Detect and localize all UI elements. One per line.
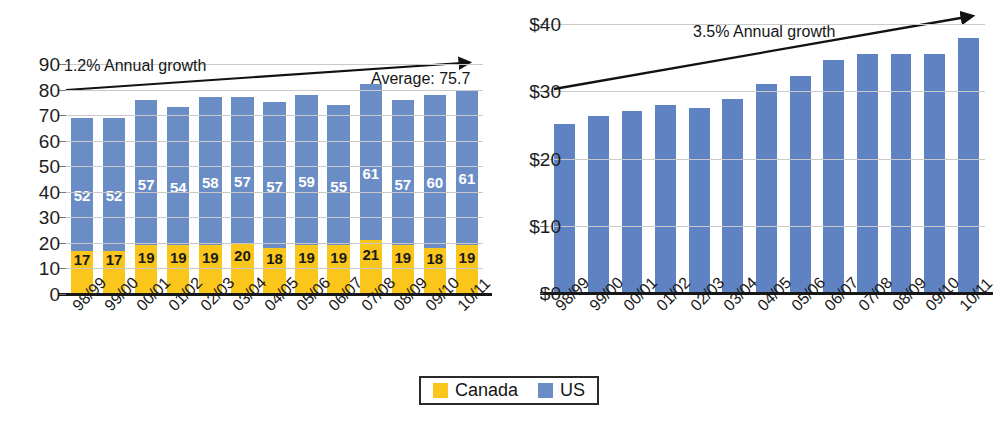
- bar-column: 1857: [263, 64, 285, 294]
- y-tick-label: 10: [18, 259, 60, 278]
- bar-segment-us: 55: [327, 105, 349, 246]
- y-tick-label: $10: [499, 217, 561, 236]
- bar-value-label: 18: [424, 251, 446, 266]
- bar-value-label: 20: [231, 248, 253, 263]
- canada-swatch-icon: [433, 383, 448, 398]
- y-tick-label: 50: [18, 157, 60, 176]
- bar-value-label: 61: [456, 171, 478, 186]
- bar-value-label: 17: [103, 252, 125, 267]
- bar-segment-value: [823, 60, 844, 293]
- bar-segment-value: [790, 76, 811, 293]
- bar-column: 1957: [135, 64, 157, 294]
- left-x-tick-labels: 98/9999/0000/0101/0202/0303/0404/0505/06…: [66, 296, 483, 366]
- bar-segment-us: 52: [71, 118, 93, 251]
- y-tick-label: 60: [18, 132, 60, 151]
- bar-value-label: 19: [167, 250, 189, 265]
- legend-label-us: US: [560, 381, 585, 399]
- bar-segment-us: 59: [295, 95, 317, 246]
- left-growth-annotation: 1.2% Annual growth: [64, 57, 206, 75]
- gridline: [66, 217, 483, 218]
- bar-value-label: 61: [360, 166, 382, 181]
- bar-value-label: 19: [135, 250, 157, 265]
- bar-segment-us: 57: [392, 100, 414, 246]
- left-bar-group: 1752175219571954195820571857195919552161…: [66, 64, 483, 294]
- bar-segment-us: 52: [103, 118, 125, 251]
- gridline: [66, 166, 483, 167]
- bar-value-label: 19: [295, 250, 317, 265]
- y-tick-label: $40: [499, 15, 561, 34]
- gridline: [66, 141, 483, 142]
- bar-segment-value: [857, 54, 878, 293]
- right-plot-area: [548, 24, 985, 293]
- bar-column: 1752: [71, 64, 93, 294]
- gridline: [66, 268, 483, 269]
- bar-value-label: 57: [231, 174, 253, 189]
- y-tick-label: 30: [18, 208, 60, 227]
- bar-value-label: 19: [199, 250, 221, 265]
- bar-segment-value: [958, 38, 979, 293]
- column-chart: 3.5% Annual growth 98/9999/0000/0101/020…: [497, 0, 997, 429]
- us-swatch-icon: [538, 383, 553, 398]
- bar-segment-us: 57: [263, 102, 285, 248]
- legend-label-canada: Canada: [455, 381, 518, 399]
- y-tick-label: $30: [499, 82, 561, 101]
- bar-value-label: 52: [71, 188, 93, 203]
- bar-segment-us: 60: [424, 95, 446, 248]
- bar-column: 1958: [199, 64, 221, 294]
- bar-column: 1955: [327, 64, 349, 294]
- y-tick-label: 20: [18, 234, 60, 253]
- bar-segment-value: [622, 111, 643, 293]
- bar-segment-us: 54: [167, 107, 189, 245]
- bar-column: 2161: [360, 64, 382, 294]
- y-tick-label: 70: [18, 106, 60, 125]
- gridline: [66, 243, 483, 244]
- gridline: [66, 115, 483, 116]
- bar-column: 1959: [295, 64, 317, 294]
- y-tick-label: 0: [18, 285, 60, 304]
- y-tick-label: 40: [18, 183, 60, 202]
- left-plot-area: 1752175219571954195820571857195919552161…: [66, 64, 483, 294]
- bar-segment-value: [655, 105, 676, 293]
- bar-value-label: 58: [199, 175, 221, 190]
- bar-segment-value: [588, 116, 609, 293]
- left-average-annotation: Average: 75.7: [371, 70, 470, 88]
- bar-segment-value: [689, 108, 710, 293]
- bar-value-label: 19: [327, 250, 349, 265]
- y-tick-label: 90: [18, 55, 60, 74]
- gridline: [66, 90, 483, 91]
- bar-value-label: 17: [71, 252, 93, 267]
- bar-segment-value: [722, 99, 743, 293]
- bar-segment-us: 61: [456, 90, 478, 246]
- right-x-tick-labels: 98/9999/0000/0101/0202/0303/0404/0505/06…: [548, 296, 985, 366]
- y-tick-label: $20: [499, 150, 561, 169]
- legend-item-canada: Canada: [433, 381, 518, 399]
- bar-value-label: 54: [167, 180, 189, 195]
- bar-column: 1957: [392, 64, 414, 294]
- y-tick-label: $0: [499, 284, 561, 303]
- chart-legend: Canada US: [419, 376, 599, 405]
- bar-value-label: 60: [424, 175, 446, 190]
- bar-segment-us: 58: [199, 97, 221, 245]
- bar-value-label: 59: [295, 174, 317, 189]
- bar-value-label: 18: [263, 251, 285, 266]
- bar-segment-value: [756, 84, 777, 293]
- bar-segment-us: 57: [135, 100, 157, 246]
- gridline: [548, 91, 985, 92]
- bar-value-label: 19: [456, 250, 478, 265]
- y-tick-label: 80: [18, 81, 60, 100]
- bar-value-label: 21: [360, 247, 382, 262]
- right-growth-annotation: 3.5% Annual growth: [693, 23, 835, 41]
- bar-column: 1961: [456, 64, 478, 294]
- bar-column: 1752: [103, 64, 125, 294]
- bar-value-label: 52: [103, 188, 125, 203]
- legend-item-us: US: [538, 381, 585, 399]
- gridline: [548, 226, 985, 227]
- stacked-bar-chart: 1752175219571954195820571857195919552161…: [0, 0, 500, 429]
- bar-value-label: 57: [135, 177, 157, 192]
- two-chart-figure: 1752175219571954195820571857195919552161…: [0, 0, 997, 429]
- bar-column: 1954: [167, 64, 189, 294]
- bar-column: 2057: [231, 64, 253, 294]
- bar-segment-value: [891, 54, 912, 293]
- bar-value-label: 57: [392, 177, 414, 192]
- gridline: [66, 192, 483, 193]
